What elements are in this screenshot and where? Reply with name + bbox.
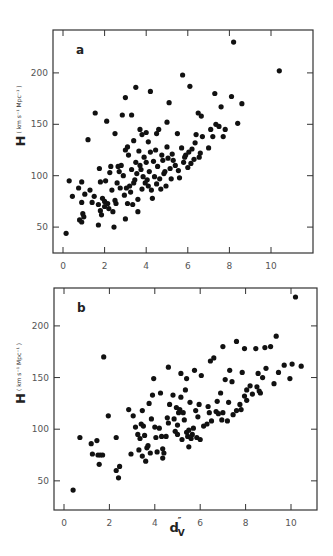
data-point <box>268 344 273 349</box>
data-point <box>199 373 204 378</box>
y-axis-label: H( km s⁻¹ Mpc⁻¹ ) <box>13 85 28 146</box>
data-point <box>226 400 231 405</box>
data-point <box>85 137 90 142</box>
data-point <box>163 183 168 188</box>
data-point <box>100 452 105 457</box>
data-point <box>115 180 120 185</box>
data-point <box>107 170 112 175</box>
data-point <box>244 387 249 392</box>
data-point <box>97 462 102 467</box>
data-point <box>250 392 255 397</box>
data-point <box>134 171 139 176</box>
data-point <box>191 157 196 162</box>
data-point <box>140 408 145 413</box>
data-point <box>148 150 153 155</box>
data-point <box>239 101 244 106</box>
y-tick-label: 50 <box>37 222 49 232</box>
data-point <box>209 418 214 423</box>
data-point <box>127 183 132 188</box>
data-point <box>239 407 244 412</box>
data-point <box>79 179 84 184</box>
data-point <box>118 185 123 190</box>
data-point <box>177 175 182 180</box>
scatter-figure: 024681050100150200aH( km s⁻¹ Mpc⁻¹ ) 024… <box>0 0 333 556</box>
data-point <box>160 456 165 461</box>
data-point <box>218 390 223 395</box>
x-tick-label: 6 <box>185 261 191 271</box>
data-point <box>90 451 95 456</box>
data-point <box>229 94 234 99</box>
data-point <box>260 375 265 380</box>
data-point <box>145 177 150 182</box>
data-point <box>175 423 180 428</box>
data-point <box>157 176 162 181</box>
data-point <box>234 408 239 413</box>
data-point <box>142 433 147 438</box>
data-point <box>123 216 128 221</box>
data-point <box>150 393 155 398</box>
data-point <box>223 127 228 132</box>
x-tick-label: 8 <box>243 518 249 528</box>
data-point <box>173 163 178 168</box>
data-point <box>148 450 153 455</box>
data-point <box>282 363 287 368</box>
data-point <box>153 147 158 152</box>
data-point <box>271 381 276 386</box>
data-point <box>97 166 102 171</box>
data-point <box>179 145 184 150</box>
data-point <box>131 413 136 418</box>
data-point <box>136 148 141 153</box>
data-point <box>151 159 156 164</box>
panel-label: a <box>76 43 84 57</box>
data-point <box>147 401 152 406</box>
data-point <box>193 408 198 413</box>
data-point <box>263 366 268 371</box>
data-point <box>76 185 81 190</box>
data-point <box>180 72 185 77</box>
data-point <box>293 294 298 299</box>
data-point <box>234 339 239 344</box>
data-point <box>112 131 117 136</box>
data-point <box>159 434 164 439</box>
data-point <box>117 169 122 174</box>
data-point <box>166 365 171 370</box>
data-point <box>162 169 167 174</box>
data-point <box>211 355 216 360</box>
data-point <box>93 110 98 115</box>
data-point <box>130 202 135 207</box>
data-point <box>121 173 126 178</box>
data-point <box>215 399 220 404</box>
x-tick-label: 0 <box>61 518 67 528</box>
data-point <box>160 158 165 163</box>
data-point <box>146 139 151 144</box>
data-point <box>119 163 124 168</box>
data-point <box>208 127 213 132</box>
data-point <box>159 153 164 158</box>
data-point <box>128 190 133 195</box>
data-point <box>164 144 169 149</box>
data-point <box>206 145 211 150</box>
data-point <box>276 370 281 375</box>
data-point <box>167 402 172 407</box>
data-point <box>143 459 148 464</box>
data-point <box>240 370 245 375</box>
x-tick-label: 4 <box>152 518 158 528</box>
data-point <box>225 418 230 423</box>
data-point <box>248 383 253 388</box>
x-tick-label: 10 <box>265 261 277 271</box>
data-point <box>77 435 82 440</box>
data-point <box>190 432 195 437</box>
data-point <box>153 435 158 440</box>
data-point <box>129 112 134 117</box>
data-point <box>71 488 76 493</box>
data-point <box>170 393 175 398</box>
data-point <box>64 231 69 236</box>
data-point <box>186 428 191 433</box>
data-point <box>128 451 133 456</box>
data-point <box>109 188 114 193</box>
data-point <box>220 410 225 415</box>
data-point <box>219 104 224 109</box>
data-point <box>98 179 103 184</box>
data-point <box>231 40 236 45</box>
data-point <box>152 425 157 430</box>
